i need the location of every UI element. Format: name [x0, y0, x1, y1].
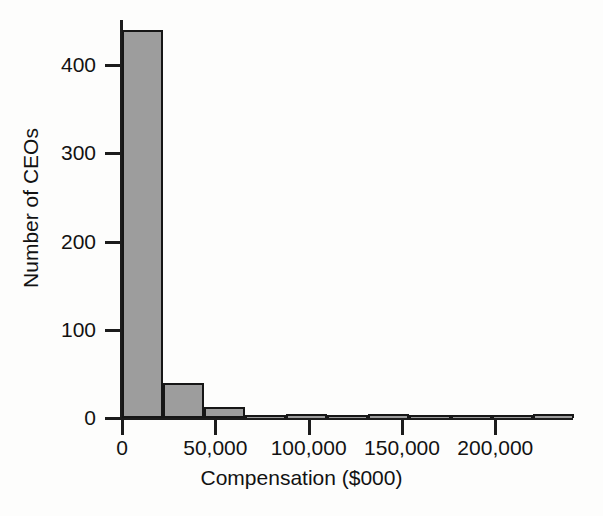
histogram-bar [245, 415, 286, 418]
histogram-bar [492, 415, 533, 418]
x-axis-tick [308, 420, 311, 435]
histogram-bar [451, 415, 492, 418]
y-axis-tick-label: 200 [36, 231, 96, 252]
y-axis-tick-label: 0 [36, 407, 96, 428]
histogram-bar [286, 414, 327, 418]
histogram-bar [163, 383, 204, 418]
x-axis-tick [401, 420, 404, 435]
histogram-bar [533, 414, 574, 418]
histogram-bar [368, 414, 409, 418]
y-axis-tick [105, 241, 122, 244]
plot-area [122, 20, 570, 418]
x-axis-tick [494, 420, 497, 435]
x-axis-tick [121, 420, 124, 435]
histogram-bar [204, 407, 245, 418]
y-axis-tick [105, 64, 122, 67]
y-axis-tick [105, 329, 122, 332]
histogram-bar [327, 415, 368, 418]
histogram-bar [409, 415, 450, 418]
y-axis-tick-label: 400 [36, 54, 96, 75]
y-axis-tick [105, 417, 122, 420]
y-axis-tick-label: 300 [36, 142, 96, 163]
x-axis-tick [214, 420, 217, 435]
histogram-figure: 0100200300400 050,000100,000150,000200,0… [0, 0, 603, 516]
y-axis-title: Number of CEOs [19, 93, 43, 323]
y-axis-tick-label: 100 [36, 319, 96, 340]
y-axis-tick [105, 152, 122, 155]
x-axis-tick-label: 200,000 [425, 437, 565, 458]
histogram-bar [122, 30, 163, 418]
x-axis-title: Compensation ($000) [0, 466, 603, 490]
